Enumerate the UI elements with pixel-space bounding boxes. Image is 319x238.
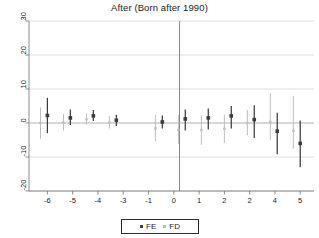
- legend-entry-fe[interactable]: FE: [140, 222, 156, 231]
- x-tick-label: 1: [187, 196, 211, 205]
- x-tick-label: 4: [263, 196, 287, 205]
- data-point-marker: [46, 114, 50, 118]
- data-point-marker: [292, 130, 294, 132]
- x-tick-label: -5: [61, 196, 85, 205]
- x-tick-label: 0: [162, 196, 186, 205]
- x-tick-label: 2: [212, 196, 236, 205]
- chart-container: After (Born after 1990) 3020100-10-20 -6…: [0, 0, 319, 238]
- x-tick-label: -6: [35, 196, 59, 205]
- data-point-marker: [39, 122, 41, 124]
- legend-entry-fd[interactable]: FD: [163, 222, 180, 231]
- x-tick-label: -3: [111, 196, 135, 205]
- data-point-marker: [92, 114, 96, 118]
- data-point-marker: [269, 121, 271, 123]
- data-point-marker: [229, 114, 233, 118]
- legend-marker-icon: [140, 225, 143, 228]
- chart-legend[interactable]: FEFD: [121, 219, 199, 234]
- data-point-marker: [298, 142, 302, 146]
- data-point-marker: [161, 120, 165, 124]
- x-tick-label: -4: [86, 196, 110, 205]
- x-tick-label: 5: [288, 196, 312, 205]
- legend-label: FE: [146, 222, 156, 231]
- data-point-marker: [183, 117, 187, 121]
- legend-label: FD: [169, 222, 180, 231]
- data-point-marker: [200, 129, 202, 131]
- data-point-marker: [154, 127, 156, 129]
- data-point-marker: [275, 129, 279, 133]
- data-point-marker: [206, 116, 210, 120]
- data-point-marker: [177, 129, 179, 131]
- data-point-marker: [62, 121, 64, 123]
- data-point-marker: [246, 122, 248, 124]
- data-point-marker: [108, 121, 110, 123]
- series-fd: [39, 93, 294, 149]
- data-point-marker: [252, 118, 256, 122]
- legend-marker-icon: [163, 225, 166, 228]
- x-tick-label: -1: [137, 196, 161, 205]
- data-point-marker: [85, 118, 87, 120]
- data-point-marker: [69, 116, 73, 120]
- data-point-marker: [115, 118, 119, 122]
- data-point-marker: [223, 128, 225, 130]
- x-tick-label: 2: [238, 196, 262, 205]
